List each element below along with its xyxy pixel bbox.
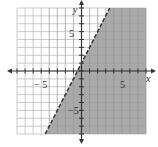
y-tick-5: 5	[69, 28, 74, 39]
y-tick-neg5: −5	[68, 105, 79, 116]
x-tick-5: 5	[120, 79, 125, 90]
x-tick-neg5: − 5	[34, 79, 47, 90]
x-axis-label: x	[145, 73, 151, 84]
graph: y x − 5 5 5 −5	[0, 0, 158, 147]
y-axis-label: y	[72, 4, 78, 15]
